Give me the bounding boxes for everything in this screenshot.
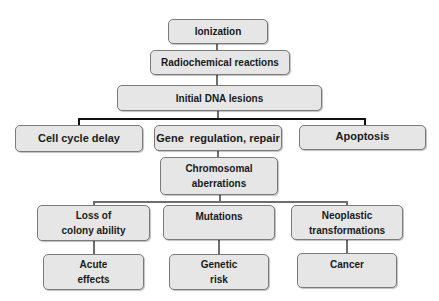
node-neoplastic-transformations: Neoplastic transformations bbox=[291, 205, 403, 240]
node-label: Cell cycle delay bbox=[38, 131, 120, 146]
node-label-line1: Chromosomal bbox=[185, 161, 252, 176]
branch-bar-dna bbox=[78, 118, 366, 120]
connector-mutations-genetic bbox=[218, 240, 220, 254]
node-label: Cancer bbox=[330, 257, 364, 272]
node-label-line1: Acute bbox=[80, 257, 108, 272]
node-ionization: Ionization bbox=[168, 19, 268, 44]
connector-radiochemical-dna bbox=[216, 75, 218, 85]
node-initial-dna-lesions: Initial DNA lesions bbox=[117, 85, 322, 111]
node-label-line2: effects bbox=[77, 272, 109, 287]
branch-bar-chromosomal bbox=[93, 201, 348, 203]
node-label: Mutations bbox=[195, 209, 242, 224]
node-gene-regulation-repair: Gene regulation, repair bbox=[154, 125, 282, 151]
node-label-line1: Neoplastic bbox=[322, 208, 373, 223]
node-label: Initial DNA lesions bbox=[176, 91, 263, 106]
node-label: Radiochemical reactions bbox=[161, 55, 279, 70]
node-cell-cycle-delay: Cell cycle delay bbox=[15, 125, 143, 152]
node-label-line2: aberrations bbox=[192, 176, 246, 191]
node-label-line1: Loss of bbox=[76, 208, 112, 223]
node-label-line2: colony ability bbox=[62, 223, 126, 238]
node-radiochemical-reactions: Radiochemical reactions bbox=[150, 50, 290, 75]
node-label-line2: risk bbox=[210, 272, 228, 287]
connector-loss-acute bbox=[93, 241, 95, 254]
connector-ionization-radiochemical bbox=[216, 43, 218, 50]
node-label: Gene regulation, repair bbox=[156, 131, 279, 146]
node-mutations: Mutations bbox=[163, 205, 275, 240]
node-apoptosis: Apoptosis bbox=[299, 125, 426, 150]
node-label: Ionization bbox=[195, 24, 242, 39]
node-label: Apoptosis bbox=[336, 129, 390, 144]
node-loss-of-colony-ability: Loss of colony ability bbox=[37, 205, 150, 241]
node-chromosomal-aberrations: Chromosomal aberrations bbox=[160, 157, 278, 195]
node-label-line2: transformations bbox=[309, 223, 385, 238]
node-label-line1: Genetic bbox=[201, 257, 238, 272]
connector-neoplastic-cancer bbox=[346, 240, 348, 253]
node-acute-effects: Acute effects bbox=[43, 254, 144, 290]
node-cancer: Cancer bbox=[297, 253, 397, 288]
node-genetic-risk: Genetic risk bbox=[169, 254, 269, 290]
